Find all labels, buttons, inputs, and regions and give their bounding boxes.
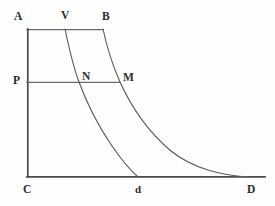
label-b: B [102, 11, 110, 23]
label-v: V [61, 10, 70, 22]
demand-curve-figure: A V B P N M C d D [0, 0, 275, 206]
figure-canvas [0, 0, 275, 206]
label-m: M [123, 72, 134, 84]
label-a: A [14, 11, 23, 23]
demand-curve [103, 29, 250, 177]
shifted-demand-curve [65, 29, 138, 177]
label-n: N [82, 71, 91, 83]
label-d-lower: d [135, 184, 141, 195]
label-c: C [23, 184, 32, 196]
label-d-upper: D [247, 184, 256, 196]
label-p: P [13, 75, 20, 87]
